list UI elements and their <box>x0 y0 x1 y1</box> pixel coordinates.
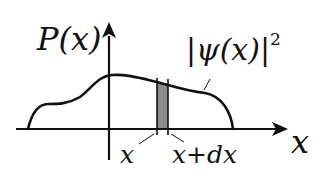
y-axis-label: P(x) <box>37 23 102 55</box>
curve-label-text: |ψ(x)| <box>186 32 270 67</box>
strip-left-label: x <box>120 142 134 167</box>
psi-squared-curve <box>28 75 233 129</box>
x-label-leader <box>139 134 154 144</box>
shaded-strip <box>157 82 168 129</box>
curve-label-exponent: 2 <box>270 29 281 49</box>
y-axis-arrowhead <box>102 22 116 38</box>
strip-right-label: x+dx <box>172 142 237 167</box>
curve-label: |ψ(x)|2 <box>186 35 281 65</box>
curve-label-leader <box>204 79 210 90</box>
x-axis-label: x <box>291 126 309 158</box>
